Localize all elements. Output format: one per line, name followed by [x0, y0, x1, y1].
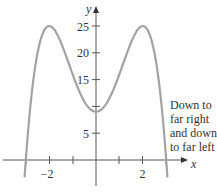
end-behavior-annotation: Down to far right and down to far left [170, 98, 217, 154]
annotation-line: Down to [170, 98, 217, 112]
y-tick-label-15: 15 [77, 73, 89, 87]
x-tick-label-2: 2 [140, 167, 146, 181]
annotation-line: far right [170, 112, 217, 126]
x-axis-arrow-icon [181, 157, 188, 163]
x-axis-label: x [190, 157, 197, 171]
y-tick-label-5: 5 [83, 127, 89, 141]
y-tick-label-25: 25 [77, 20, 89, 34]
x-tick-label-neg2: −2 [41, 167, 54, 181]
annotation-line: to far left [170, 140, 217, 154]
annotation-line: and down [170, 126, 217, 140]
y-axis-arrow-icon [93, 6, 99, 13]
y-axis-label: y [85, 2, 92, 16]
y-tick-label-20: 20 [77, 46, 89, 60]
